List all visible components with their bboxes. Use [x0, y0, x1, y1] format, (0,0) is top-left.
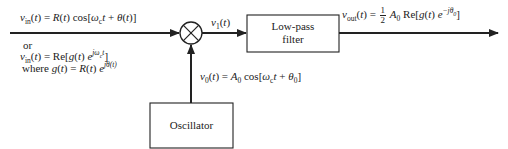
fraction-denominator: 2 — [380, 16, 387, 25]
oscillator-label: Oscillator — [150, 119, 233, 132]
v1-label: v1(t) — [211, 16, 230, 29]
input-label-cos-form: vin(t) = R(t) cos[ωct + θ(t)] — [20, 11, 136, 24]
lpf-label-line1: Low-pass — [247, 20, 339, 33]
lpf-label-line2: filter — [247, 33, 339, 46]
low-pass-filter-label: Low-pass filter — [247, 20, 339, 46]
mixer-multiplier-icon — [180, 22, 202, 44]
output-label: vout(t) = 1 2 A0 Re[g(t) e−jθ0] — [342, 6, 460, 25]
oscillator-output-label: v0(t) = A0 cos[ωct + θ0] — [200, 70, 301, 83]
input-label-envelope-definition: where g(t) = R(t) ejθ(t) — [22, 62, 117, 75]
where-word: where — [22, 62, 49, 74]
